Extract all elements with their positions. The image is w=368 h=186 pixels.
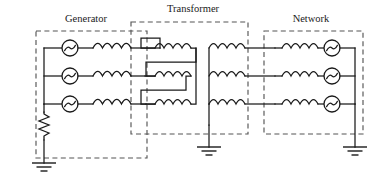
inductor-coil-icon <box>209 72 245 77</box>
network-phase-c <box>275 96 355 112</box>
transformer-boundary-box <box>131 22 248 134</box>
transformer-label: Transformer <box>167 3 220 14</box>
transformer-ground-icon <box>197 147 221 155</box>
circuit-diagram: Generator Transformer Network <box>0 0 368 186</box>
generator-neutral-grounding-branch <box>39 104 49 163</box>
inductor-coil-icon <box>155 100 191 105</box>
inductor-coil-icon <box>93 43 131 48</box>
transformer-secondary-winding-b <box>209 72 275 77</box>
transformer-secondary-winding-c <box>209 100 275 105</box>
schematic-canvas: Generator Transformer Network <box>0 0 368 186</box>
transformer-primary-winding-c <box>155 100 191 105</box>
inductor-coil-icon <box>282 72 318 77</box>
network-ground-icon <box>343 147 367 155</box>
resistor-zigzag-icon <box>39 112 49 140</box>
generator-ground-icon <box>32 163 56 171</box>
generator-phase-b <box>44 68 145 84</box>
inductor-coil-icon <box>155 72 191 77</box>
network-boundary-box <box>264 31 363 134</box>
transformer-primary-winding-b <box>155 72 191 77</box>
network-phase-b <box>275 68 355 84</box>
inductor-coil-icon <box>93 71 131 76</box>
network-label: Network <box>293 13 330 24</box>
network-phase-a <box>275 40 355 56</box>
inductor-coil-icon <box>209 44 245 49</box>
inductor-coil-icon <box>282 100 318 105</box>
generator-boundary-box <box>36 31 147 158</box>
generator-label: Generator <box>65 13 107 24</box>
inductor-coil-icon <box>93 99 131 104</box>
inductor-coil-icon <box>209 100 245 105</box>
inductor-coil-icon <box>282 44 318 49</box>
transformer-secondary-winding-a <box>209 44 275 49</box>
